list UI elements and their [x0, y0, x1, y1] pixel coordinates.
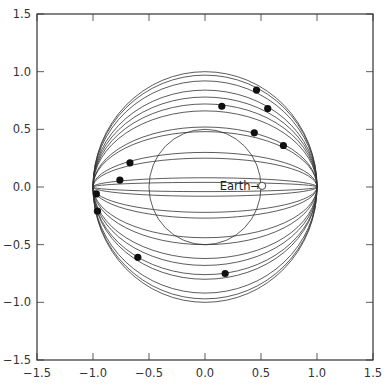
x-tick-label: 0.5 — [252, 366, 270, 380]
data-point — [251, 129, 258, 136]
y-axis-tick-labels: −1.5−1.0−0.50.00.51.01.5 — [3, 7, 31, 367]
y-tick-label: 0.5 — [13, 122, 31, 136]
data-point — [264, 105, 271, 112]
y-tick-label: −1.0 — [3, 295, 31, 309]
orbit-arc — [93, 132, 317, 187]
axis-ticks — [37, 14, 373, 360]
plot-frame — [37, 14, 373, 360]
y-tick-label: 1.0 — [13, 65, 31, 79]
earth-marker-icon — [259, 182, 266, 189]
data-point — [126, 159, 133, 166]
data-point — [218, 103, 225, 110]
x-tick-label: 0.0 — [196, 366, 214, 380]
reference-circles — [93, 72, 317, 303]
x-tick-label: −1.5 — [23, 366, 51, 380]
orbit-arc — [93, 187, 317, 293]
orbit-arc — [93, 152, 317, 187]
data-point — [253, 87, 260, 94]
data-point — [134, 254, 141, 261]
data-point — [280, 142, 287, 149]
x-axis-tick-labels: −1.5−1.0−0.50.00.51.01.5 — [23, 366, 382, 380]
y-tick-label: −0.5 — [3, 238, 31, 252]
orbit-arc — [93, 187, 317, 275]
data-point — [94, 208, 101, 215]
chart: −1.5−1.0−0.50.00.51.01.5 −1.5−1.0−0.50.0… — [0, 0, 391, 390]
earth-label: Earth→ — [220, 179, 261, 193]
x-tick-label: −0.5 — [135, 366, 163, 380]
orbit-arc — [93, 187, 317, 259]
x-tick-label: −1.0 — [79, 366, 107, 380]
orbit-arc — [93, 75, 317, 187]
orbit-arc — [93, 187, 317, 265]
outer-circle — [93, 72, 317, 303]
orbit-arc — [93, 182, 317, 187]
orbit-arcs — [93, 75, 317, 299]
x-tick-label: 1.0 — [308, 366, 326, 380]
y-tick-label: −1.5 — [3, 353, 31, 367]
data-point — [116, 176, 123, 183]
data-point — [93, 190, 100, 197]
orbit-arc — [93, 187, 317, 245]
orbit-arc — [93, 187, 317, 192]
y-tick-label: 1.5 — [13, 7, 31, 21]
annotations: Earth→ — [220, 179, 266, 193]
data-point — [222, 270, 229, 277]
y-tick-label: 0.0 — [13, 180, 31, 194]
x-tick-label: 1.5 — [364, 366, 382, 380]
orbit-arc — [93, 187, 317, 212]
